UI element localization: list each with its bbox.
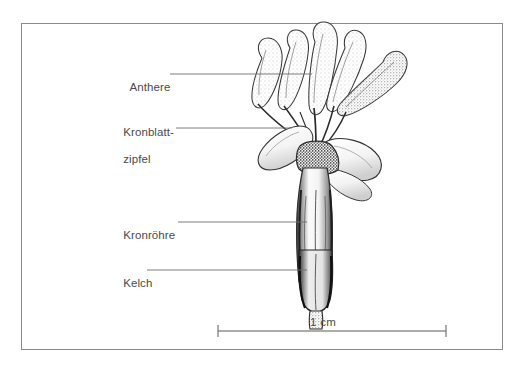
figure-root: Anthere Kronblatt- zipfel Kronröhre Kelc…: [0, 0, 523, 368]
anther-group: [252, 22, 407, 116]
label-kronblatt-zipfel: Kronblatt- zipfel: [110, 112, 174, 180]
label-kronblatt-line2: zipfel: [123, 153, 150, 165]
label-kelch-line1: Kelch: [123, 277, 152, 289]
label-kronroehre: Kronröhre: [110, 215, 175, 256]
label-kronroehre-line1: Kronröhre: [123, 229, 175, 241]
label-kronblatt-line1: Kronblatt-: [123, 126, 174, 138]
scale-bar-caption: 1 cm: [310, 316, 336, 328]
label-anthere: Anthere: [117, 67, 171, 108]
label-anthere-line1: Anthere: [130, 81, 171, 93]
flower-illustration: [0, 0, 523, 368]
label-kelch: Kelch: [110, 263, 152, 304]
